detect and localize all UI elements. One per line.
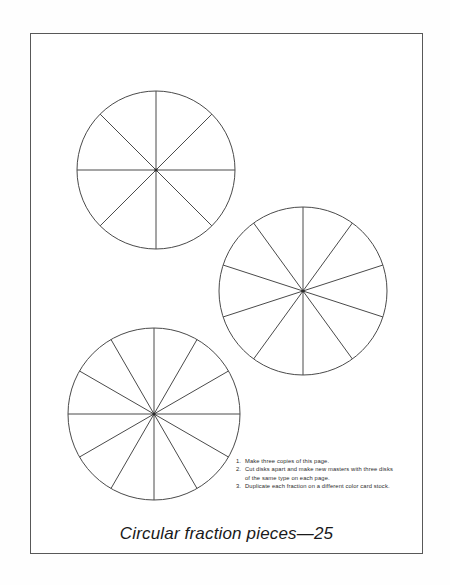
worksheet-page: 1. Make three copies of this page. 2. Cu… [0,0,450,585]
instructions-list: 1. Make three copies of this page. 2. Cu… [236,457,396,490]
list-item: 3. Duplicate each fraction on a differen… [236,482,396,490]
instruction-text: Duplicate each fraction on a different c… [245,482,396,490]
list-item: 1. Make three copies of this page. [236,457,396,465]
instruction-text: Cut disks apart and make new masters wit… [245,465,396,482]
instruction-text: Make three copies of this page. [245,457,396,465]
instruction-number: 1. [236,457,241,465]
list-item: 2. Cut disks apart and make new masters … [236,465,396,482]
instruction-number: 3. [236,482,241,490]
instruction-number: 2. [236,465,241,473]
page-title: Circular fraction pieces—25 [30,523,423,545]
